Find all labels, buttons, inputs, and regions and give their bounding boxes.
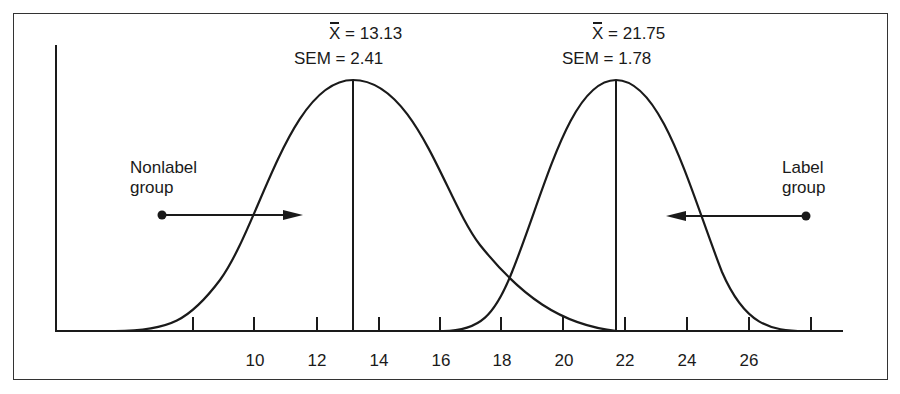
x-ticks [193,317,811,331]
label-mean-label: X = 21.75 [592,24,665,44]
label-mean-value: = 21.75 [608,24,665,43]
tick-label-10: 10 [246,351,265,371]
tick-label-26: 26 [740,351,759,371]
label-group-line1: Label [782,158,825,178]
nonlabel-mean-value: = 13.13 [345,24,402,43]
tick-label-24: 24 [678,351,697,371]
nonlabel-mean-label: X = 13.13 [329,24,402,44]
x-bar-symbol: X [592,24,603,44]
label-group-line2: group [782,178,825,198]
tick-label-16: 16 [432,351,451,371]
tick-label-14: 14 [370,351,389,371]
nonlabel-group-line2: group [130,178,197,198]
nonlabel-group-line1: Nonlabel [130,158,197,178]
tick-label-20: 20 [555,351,574,371]
tick-label-18: 18 [493,351,512,371]
label-group-label: Label group [782,158,825,198]
nonlabel-group-label: Nonlabel group [130,158,197,198]
label-arrow [666,211,811,221]
tick-label-12: 12 [308,351,327,371]
label-sem-label: SEM = 1.78 [562,49,651,69]
tick-label-22: 22 [616,351,635,371]
nonlabel-distribution-curve [115,80,617,331]
nonlabel-arrow [158,210,304,220]
label-distribution-curve [443,80,805,331]
nonlabel-sem-label: SEM = 2.41 [294,49,383,69]
x-bar-symbol: X [329,24,340,44]
